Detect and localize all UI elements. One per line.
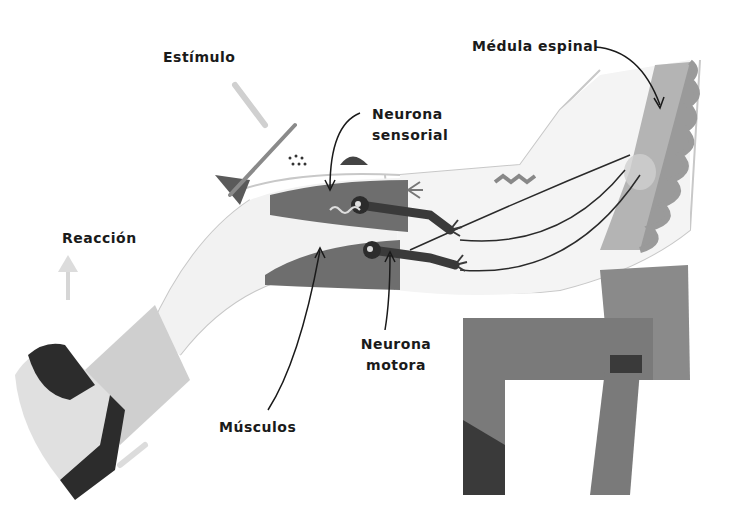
label-reaccion: Reacción (62, 229, 137, 248)
reflex-illustration (0, 0, 739, 521)
chair (463, 265, 690, 495)
label-neurona-motora-line2: motora (356, 356, 436, 375)
label-neurona-sensorial-line2: sensorial (372, 126, 448, 145)
label-neurona-motora-line1: Neurona (356, 335, 436, 354)
impact-dots (289, 155, 369, 166)
foot (15, 305, 190, 500)
label-medula-espinal: Médula espinal (472, 37, 598, 56)
label-neurona-sensorial-line1: Neurona (372, 105, 443, 124)
label-musculos: Músculos (219, 418, 296, 437)
stimulus-arrow (235, 85, 265, 125)
label-estimulo: Estímulo (163, 48, 235, 67)
